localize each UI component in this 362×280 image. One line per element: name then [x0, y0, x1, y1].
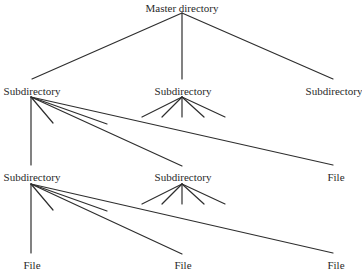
- edge-l1mid-stub-4: [182, 97, 204, 117]
- edge-l1mid-stub-2: [162, 97, 182, 117]
- node-file-l3-mid: File: [174, 259, 191, 271]
- node-subdirectory-l2-mid: Subdirectory: [155, 171, 212, 183]
- edge-root-to-left-subdir: [32, 13, 182, 79]
- edge-l1mid-stub-5: [182, 97, 225, 117]
- edge-l2mid-stub-4: [182, 184, 204, 204]
- node-subdirectory-l1-mid: Subdirectory: [155, 85, 212, 97]
- node-master-directory: Master directory: [146, 2, 219, 14]
- edge-l2mid-stub-1: [142, 184, 182, 204]
- edge-l2mid-stub-2: [162, 184, 182, 204]
- edge-l1mid-stub-1: [142, 97, 182, 117]
- node-subdirectory-l1-right: Subdirectory: [306, 85, 362, 97]
- node-file-l3-right: File: [327, 259, 344, 271]
- node-file-l2-right: File: [327, 171, 344, 183]
- edge-l2left-to-l3mid: [31, 184, 182, 254]
- edge-l2mid-stub-5: [182, 184, 225, 204]
- node-subdirectory-l2-left: Subdirectory: [4, 171, 61, 183]
- edge-root-to-right-subdir: [182, 13, 333, 79]
- node-file-l3-left: File: [23, 259, 40, 271]
- node-subdirectory-l1-left: Subdirectory: [4, 85, 61, 97]
- edge-l1left-to-l2mid: [31, 97, 182, 166]
